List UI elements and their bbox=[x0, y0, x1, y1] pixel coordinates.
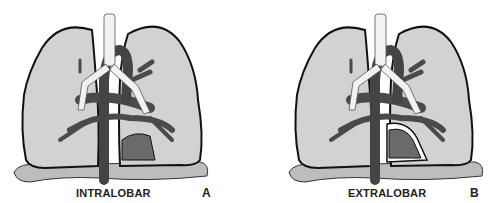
trachea bbox=[375, 14, 386, 66]
lung-diagram-intralobar bbox=[0, 0, 245, 203]
trachea bbox=[104, 14, 115, 66]
lung-diagram-extralobar bbox=[245, 0, 490, 203]
sequestration-intralobar bbox=[122, 134, 155, 160]
panel-letter-a: A bbox=[202, 186, 211, 200]
caption-extralobar: EXTRALOBAR bbox=[348, 187, 426, 199]
panel-extralobar: EXTRALOBAR B bbox=[245, 0, 490, 203]
panel-letter-b: B bbox=[470, 186, 479, 200]
panel-intralobar: INTRALOBAR A bbox=[0, 0, 245, 203]
caption-intralobar: INTRALOBAR bbox=[76, 187, 151, 199]
